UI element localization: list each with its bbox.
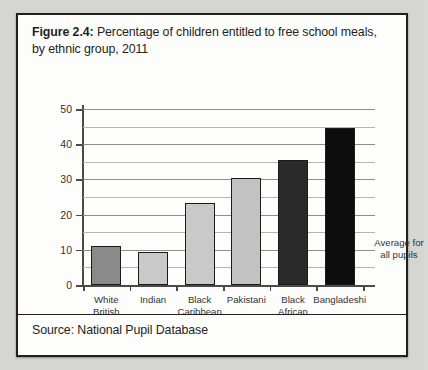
y-axis-tick-label: 30 <box>46 173 72 185</box>
x-axis-tick <box>316 285 318 291</box>
x-axis-tick <box>223 285 225 291</box>
bar <box>185 203 215 285</box>
y-axis-labels: 01020304050 <box>42 15 72 311</box>
gridline-major <box>83 179 363 180</box>
gridline-tick-stub <box>363 144 375 145</box>
x-axis-category-label: Bangladeshi <box>305 294 375 306</box>
gridline-tick-stub <box>363 109 375 110</box>
bar <box>138 252 168 285</box>
average-all-pupils-annotation: Average for all pupils <box>370 237 428 260</box>
x-axis-label-line: British <box>71 306 141 318</box>
gridline-tick-stub <box>363 197 375 198</box>
x-axis-tick <box>83 285 85 291</box>
y-axis-tick <box>76 215 82 217</box>
gridline-tick-stub <box>363 215 375 216</box>
gridline-tick-stub <box>363 267 375 268</box>
figure-panel: Figure 2.4: Percentage of children entit… <box>16 13 408 357</box>
y-axis-tick <box>76 179 82 181</box>
x-axis-tick <box>176 285 178 291</box>
gridline-tick-stub <box>363 232 375 233</box>
gridline-major <box>83 109 363 110</box>
source-divider <box>18 314 406 315</box>
y-axis-tick <box>76 285 82 287</box>
gridline-minor <box>83 197 363 198</box>
gridline-minor <box>83 162 363 163</box>
x-axis-tick <box>363 285 365 291</box>
y-axis-tick-label: 40 <box>46 138 72 150</box>
plot-area <box>83 109 363 285</box>
x-axis-tick <box>270 285 272 291</box>
annotation-line-2: all pupils <box>370 249 428 261</box>
y-axis-tick-label: 50 <box>46 103 72 115</box>
gridline-tick-stub <box>363 179 375 180</box>
gridline-tick-stub <box>363 127 375 128</box>
source-text: Source: National Pupil Database <box>32 323 208 337</box>
gridline-major <box>83 250 363 251</box>
y-axis-tick <box>76 109 82 111</box>
bar <box>325 128 355 285</box>
x-axis-label-line: Bangladeshi <box>305 294 375 306</box>
x-axis-label-line: Caribbean <box>165 306 235 318</box>
bar-chart: 01020304050 Average for all pupils White… <box>18 15 406 311</box>
y-axis-tick-label: 10 <box>46 244 72 256</box>
bar <box>278 160 308 285</box>
bar <box>231 178 261 285</box>
x-axis-line <box>83 285 375 287</box>
x-axis-label-line: African <box>258 306 328 318</box>
gridline-minor <box>83 232 363 233</box>
gridline-major <box>83 144 363 145</box>
annotation-line-1: Average for <box>370 237 428 249</box>
gridline-minor <box>83 127 363 128</box>
gridline-major <box>83 215 363 216</box>
gridline-minor <box>83 267 363 268</box>
x-axis-tick <box>130 285 132 291</box>
y-axis-tick-label: 0 <box>46 279 72 291</box>
y-axis-tick <box>76 250 82 252</box>
bar <box>91 246 121 285</box>
gridline-tick-stub <box>363 162 375 163</box>
y-axis-tick-label: 20 <box>46 209 72 221</box>
y-axis-tick <box>76 144 82 146</box>
